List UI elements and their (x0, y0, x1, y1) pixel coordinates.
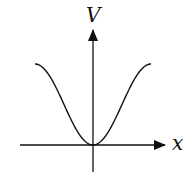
y-axis-label: V (86, 3, 103, 27)
x-axis-label: x (172, 131, 183, 155)
potential-diagram: V x (0, 0, 195, 182)
